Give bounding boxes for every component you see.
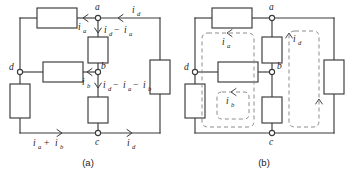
panel-b-resistors [185,8,344,123]
label-i-a-top-base: i [78,22,81,32]
mesh-loop-i-b: i b [217,89,249,120]
resistor-b-to-c [88,97,108,123]
b-node-b-dot [269,69,274,74]
expr-bot-second-sub: b [60,143,64,150]
label-i-d-bottom-base: i [127,138,130,148]
label-i-a-plus-i-b: i a + i b [33,138,64,150]
circuit-figure: a b c d [0,0,354,174]
panel-a: a b c d [9,2,170,168]
node-a-label: a [95,2,100,12]
b-resistor-a-to-b [262,37,282,63]
label-i-b-mid: i b [82,77,91,89]
expr-bot-first: i [33,138,36,148]
mesh-loop-i-a-label: i a [222,37,231,49]
expr-top-first-sub: d [109,30,113,37]
expr-bot-first-sub: a [38,143,42,150]
b-resistor-middle-left [218,62,258,82]
mesh-loop-i-a-sub: a [227,42,231,49]
resistor-middle-left [43,62,83,82]
label-i-d-top-base: i [132,5,135,15]
label-i-b-mid-base: i [82,77,85,87]
mesh-loop-i-b-sub: b [231,101,235,108]
expr-top-second: i [124,25,127,35]
mesh-loop-i-d-base: i [293,34,296,44]
expr-top-second-sub: a [129,30,133,37]
expr-bot-second: i [55,138,58,148]
node-d-label: d [9,62,14,72]
resistor-right-rail [150,60,170,94]
node-d-dot [17,69,22,74]
b-node-d-label: d [184,62,189,72]
panel-a-resistors [10,8,170,123]
label-i-d-minus-i-a: i d − i a [104,25,133,37]
resistor-top-left [37,8,77,28]
mesh-loop-i-d: i d [286,31,323,127]
mesh-loop-i-d-path [289,31,319,127]
expr-mid-first-sub: d [108,85,112,92]
node-b-dot [95,69,100,74]
expr-mid-op1: − [113,80,118,90]
node-c-label: c [95,137,100,147]
figure-root: a b c d [0,0,354,174]
label-i-a-top-sub: a [83,27,87,34]
mesh-loop-i-b-base: i [226,96,229,106]
b-node-c-dot [269,130,274,135]
panel-b: a b c d i a i b [184,2,344,168]
expr-mid-first: i [103,80,106,90]
b-resistor-b-to-c [262,97,282,123]
b-node-c-label: c [269,137,274,147]
expr-top-first: i [104,25,107,35]
label-i-d-top-sub: d [137,10,141,17]
expr-mid-second: i [123,80,126,90]
label-i-b-mid-sub: b [87,82,91,89]
node-c-dot [95,130,100,135]
node-a-dot [95,15,100,20]
mesh-loop-i-a-base: i [222,37,225,47]
label-i-d-minus-i-a-minus-i-b: i d − i a − i b [103,80,152,92]
resistor-left-rail [10,84,30,118]
b-node-d-dot [192,69,197,74]
mesh-loop-i-d-sub: d [298,39,302,46]
b-resistor-right-rail [324,60,344,94]
node-b-label: b [101,61,106,71]
mesh-loop-i-b-arrow [231,89,236,96]
expr-mid-third: i [143,80,146,90]
label-i-a-top: i a [78,22,87,34]
label-i-d-top: i d [132,5,141,17]
b-node-a-dot [269,15,274,20]
mesh-loop-i-b-label: i b [226,96,235,108]
expr-mid-op2: − [133,80,138,90]
resistor-a-to-b [88,37,108,63]
expr-mid-second-sub: a [128,85,132,92]
expr-bot-op: + [44,138,49,148]
caption-b: (b) [258,157,270,168]
b-resistor-top-left [212,8,252,28]
label-i-d-bottom: i d [127,138,136,150]
b-node-a-label: a [269,2,274,12]
expr-top-op: − [114,25,119,35]
label-i-d-bottom-sub: d [132,143,136,150]
mesh-loop-i-d-label: i d [293,34,302,46]
b-node-b-label: b [277,61,282,71]
caption-a: (a) [82,157,94,168]
